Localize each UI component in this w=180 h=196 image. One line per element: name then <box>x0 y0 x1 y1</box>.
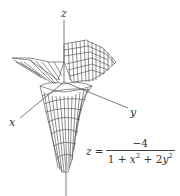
den-exp-y: 2 <box>168 152 172 160</box>
surface-equation: z = −4 1 + x2 + 2y2 <box>86 137 173 165</box>
z-axis-label: z <box>60 7 67 20</box>
x-axis-label: x <box>9 116 16 129</box>
y-axis-label: y <box>129 106 137 119</box>
y-axis <box>64 82 128 108</box>
wireframe-plot: z x y <box>0 0 180 196</box>
den-term-2: + 2 <box>140 153 162 165</box>
den-term-1: 1 + <box>108 153 130 165</box>
equation-numerator: −4 <box>106 137 175 151</box>
equation-denominator: 1 + x2 + 2y2 <box>108 151 173 165</box>
equation-lhs: z = <box>86 145 104 157</box>
equation-fraction: −4 1 + x2 + 2y2 <box>108 137 173 165</box>
axes <box>20 20 128 196</box>
